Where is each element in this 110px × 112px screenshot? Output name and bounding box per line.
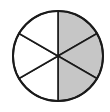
fraction-circle-diagram bbox=[0, 0, 110, 112]
